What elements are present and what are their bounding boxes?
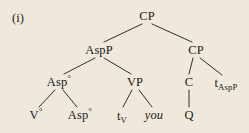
tree-node-label: V xyxy=(30,108,39,122)
tree-node-label: VP xyxy=(127,75,143,89)
syntax-tree-figure: (i) CPAspPCPAsp°VPCtAspPV°Asp°tVyouQ xyxy=(0,0,249,133)
tree-node-superscript: ° xyxy=(67,73,71,83)
tree-node-aspp: AspP xyxy=(85,44,113,57)
tree-branch xyxy=(39,90,55,107)
tree-node-label: CP xyxy=(139,9,155,23)
tree-node-c: C xyxy=(185,76,193,89)
tree-branch xyxy=(139,90,152,107)
tree-node-superscript: ° xyxy=(39,106,43,116)
tree-branch xyxy=(200,58,222,75)
tree-node-you: you xyxy=(145,109,163,122)
tree-branch xyxy=(152,24,192,42)
tree-node-q: Q xyxy=(184,109,193,122)
tree-branch xyxy=(64,58,95,74)
tree-node-vp: VP xyxy=(127,76,143,89)
tree-node-v-head: V° xyxy=(30,109,43,122)
tree-node-label: C xyxy=(185,75,193,89)
tree-branch xyxy=(63,90,77,107)
tree-node-label: you xyxy=(145,108,163,122)
tree-node-label: Q xyxy=(184,108,193,122)
tree-node-t-v: tV xyxy=(117,110,127,123)
tree-branch xyxy=(104,24,142,42)
tree-node-subscript: AspP xyxy=(218,82,237,92)
tree-node-superscript: ° xyxy=(88,106,92,116)
tree-branch xyxy=(189,58,193,74)
tree-node-asp-head: Asp° xyxy=(68,109,92,122)
tree-branch xyxy=(104,58,131,74)
tree-node-asp-bar: Asp° xyxy=(47,76,71,89)
tree-branch xyxy=(123,90,132,107)
tree-node-t-aspp: tAspP xyxy=(215,77,238,90)
tree-node-label: Asp xyxy=(47,75,67,89)
tree-node-label: CP xyxy=(188,43,204,57)
tree-node-subscript: V xyxy=(121,115,127,125)
tree-node-cp-root: CP xyxy=(139,10,155,23)
tree-node-label: Asp xyxy=(68,108,88,122)
tree-node-cp-lower: CP xyxy=(188,44,204,57)
tree-node-label: AspP xyxy=(85,43,113,57)
